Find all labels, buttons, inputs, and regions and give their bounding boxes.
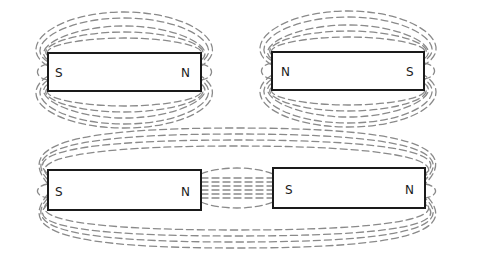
pole-label-top-left-right: N (181, 66, 190, 80)
pole-label-top-right-left: N (281, 65, 290, 79)
pole-label-bottom-left-left: S (55, 185, 63, 199)
pole-label-top-left-left: S (55, 66, 63, 80)
pole-label-bottom-left-right: N (181, 185, 190, 199)
magnet-bottom-right (273, 168, 425, 208)
pole-label-top-right-right: S (406, 65, 414, 79)
magnetic-field-diagram: S N N S (0, 0, 480, 256)
magnet-top-left (48, 53, 201, 91)
magnet-top-right (272, 52, 424, 90)
pole-label-bottom-right-right: N (405, 183, 414, 197)
magnet-bottom-left (48, 170, 201, 210)
pole-label-bottom-right-left: S (285, 183, 293, 197)
